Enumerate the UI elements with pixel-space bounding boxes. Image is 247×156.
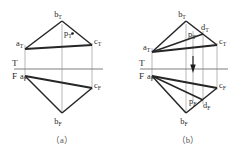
panel-a-front-view-triangle	[25, 76, 92, 113]
label-p-top-a: pT	[64, 29, 72, 39]
label-a-front-a: aF	[20, 72, 28, 82]
axis-label-t-b: T	[139, 58, 145, 68]
edge-ca-top	[25, 45, 92, 49]
label-d-top-b: dT	[201, 23, 209, 33]
construction-line-ad-front	[152, 76, 203, 100]
label-b-front-a: bF	[54, 117, 62, 127]
label-c-top-b: cT	[219, 37, 227, 47]
figure-sheet: bT aT cT pT aF cF bF T F （a）	[0, 0, 247, 156]
label-a-front-b: aF	[147, 72, 155, 82]
edge-ab-top	[25, 21, 62, 49]
edge-ab-top	[152, 21, 186, 52]
projection-diagram: bT aT cT pT aF cF bF T F （a）	[0, 0, 247, 156]
projection-direction-arrow	[190, 56, 195, 73]
label-d-front-b: dF	[203, 101, 211, 111]
label-b-top-a: bT	[54, 10, 62, 20]
caption-a: （a）	[51, 135, 73, 145]
axis-label-t-a: T	[12, 58, 18, 68]
label-a-top-a: aT	[16, 39, 24, 49]
axis-label-f-b: F	[139, 71, 144, 81]
axis-label-f-a: F	[12, 71, 17, 81]
label-c-front-b: cF	[219, 81, 227, 91]
panel-b-top-view-triangle	[152, 21, 217, 52]
label-b-front-b: bF	[180, 117, 188, 127]
label-c-top-a: cT	[94, 37, 102, 47]
label-b-top-b: bT	[178, 10, 186, 20]
panel-b: bT dT pT cT aT aF cF pF dF bF T F （b）	[139, 10, 228, 145]
label-p-front-b: pF	[189, 97, 197, 107]
label-a-top-b: aT	[143, 43, 151, 53]
edge-bc-front	[62, 88, 92, 113]
panel-a-top-view-triangle	[25, 21, 92, 49]
label-p-top-b: pT	[188, 30, 196, 40]
label-c-front-a: cF	[94, 81, 102, 91]
panel-a: bT aT cT pT aF cF bF T F （a）	[12, 10, 103, 145]
caption-b: （b）	[177, 135, 199, 145]
